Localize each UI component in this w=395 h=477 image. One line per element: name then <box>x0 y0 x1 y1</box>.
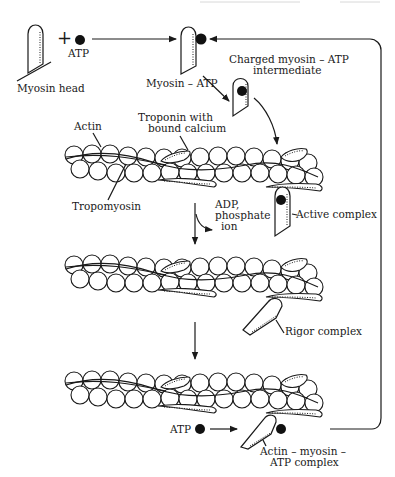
troponin-label-line2: bound calcium <box>148 122 226 134</box>
atp-label-bottom: ATP <box>169 423 191 435</box>
diagram-canvas: + ATP Myosin head Myosin – ATP Charged m… <box>0 0 395 477</box>
arrow-to-active <box>254 98 277 144</box>
troponin-pointer <box>180 136 188 150</box>
charged-label-line2: intermediate <box>253 64 322 76</box>
active-complex-head <box>275 187 290 236</box>
plus-sign: + <box>57 27 72 48</box>
charged-myosin-head <box>233 79 248 117</box>
atp-label-top: ATP <box>67 47 89 59</box>
actin-myosin-label-line2: ATP complex <box>269 456 339 468</box>
actin-label: Actin <box>73 120 102 132</box>
atp-dot <box>196 34 207 45</box>
actin-filament-3 <box>65 371 323 417</box>
actin-filament-1 <box>65 145 323 191</box>
rigor-complex-head <box>243 299 282 335</box>
atp-dot <box>195 424 205 434</box>
muscle-contraction-diagram: + ATP Myosin head Myosin – ATP Charged m… <box>0 0 395 477</box>
actin-filament-2 <box>65 255 323 301</box>
actin-myosin-atp-head <box>241 415 286 449</box>
adp-label-line3: ion <box>221 220 238 232</box>
myosin-head-label: Myosin head <box>17 82 85 94</box>
active-complex-label: Active complex <box>295 208 377 220</box>
tropomyosin-label: Tropomyosin <box>72 200 141 212</box>
myosin-head <box>17 25 51 81</box>
myosin-atp-label: Myosin – ATP <box>146 77 218 89</box>
rigor-pointer <box>276 320 284 333</box>
atp-dot <box>75 35 85 45</box>
myosin-atp-head <box>181 27 207 74</box>
adp-release-arrow <box>196 214 212 230</box>
rigor-complex-label: Rigor complex <box>285 325 362 337</box>
